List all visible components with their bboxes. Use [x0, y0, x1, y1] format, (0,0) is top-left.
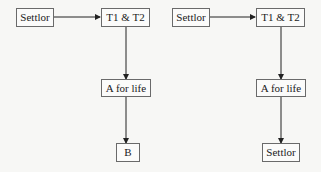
node-settlor-right: Settlor: [172, 8, 210, 27]
node-remainder-right: Settlor: [262, 143, 300, 162]
node-trustees-right: T1 & T2: [256, 8, 305, 27]
node-settlor-left: Settlor: [16, 8, 54, 27]
node-trustees-left: T1 & T2: [101, 8, 150, 27]
node-life-tenant-left: A for life: [101, 79, 151, 97]
node-remainder-left: B: [116, 143, 140, 162]
trust-diagrams: Settlor T1 & T2 A for life B Settlor T1 …: [0, 0, 321, 172]
node-life-tenant-right: A for life: [256, 79, 306, 97]
